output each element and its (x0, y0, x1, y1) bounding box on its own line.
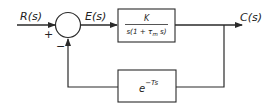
block-diagram: R(s) + − E(s) K s(1 + τm s) C(s) e−Ts (0, 0, 275, 110)
plus-sign: + (44, 28, 53, 41)
forward-denominator: s(1 + τm s) (126, 27, 166, 37)
error-label: E(s) (85, 10, 106, 23)
summing-junction (56, 13, 81, 38)
minus-sign: − (56, 40, 65, 53)
output-label: C(s) (240, 11, 262, 24)
forward-numerator: K (144, 14, 150, 23)
feedback-path-left (68, 39, 118, 87)
feedback-path-right (176, 25, 224, 87)
input-label: R(s) (20, 10, 42, 23)
